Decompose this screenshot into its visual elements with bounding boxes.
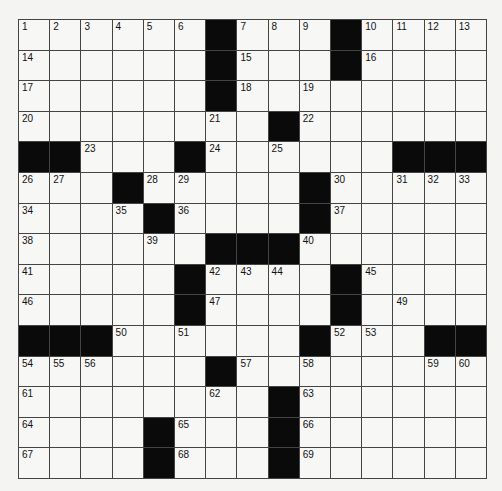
grid-cell[interactable]	[393, 112, 423, 142]
grid-cell[interactable]: 60	[456, 357, 486, 387]
grid-cell[interactable]	[206, 418, 236, 448]
grid-cell[interactable]	[456, 448, 486, 478]
grid-cell[interactable]: 21	[206, 112, 236, 142]
grid-cell[interactable]	[81, 81, 111, 111]
grid-cell[interactable]	[393, 51, 423, 81]
grid-cell[interactable]	[425, 112, 455, 142]
grid-cell[interactable]: 51	[175, 326, 205, 356]
grid-cell[interactable]	[331, 357, 361, 387]
grid-cell[interactable]: 36	[175, 204, 205, 234]
grid-cell[interactable]	[206, 448, 236, 478]
grid-cell[interactable]: 61	[19, 387, 49, 417]
grid-cell[interactable]: 18	[237, 81, 267, 111]
grid-cell[interactable]	[425, 204, 455, 234]
grid-cell[interactable]	[393, 234, 423, 264]
grid-cell[interactable]: 63	[300, 387, 330, 417]
grid-cell[interactable]	[362, 204, 392, 234]
grid-cell[interactable]: 57	[237, 357, 267, 387]
grid-cell[interactable]	[206, 173, 236, 203]
grid-cell[interactable]	[393, 418, 423, 448]
grid-cell[interactable]: 54	[19, 357, 49, 387]
grid-cell[interactable]: 8	[269, 20, 299, 50]
grid-cell[interactable]	[81, 173, 111, 203]
grid-cell[interactable]	[300, 265, 330, 295]
grid-cell[interactable]	[456, 295, 486, 325]
grid-cell[interactable]	[269, 81, 299, 111]
grid-cell[interactable]: 5	[144, 20, 174, 50]
grid-cell[interactable]: 43	[237, 265, 267, 295]
grid-cell[interactable]	[269, 295, 299, 325]
grid-cell[interactable]	[113, 295, 143, 325]
grid-cell[interactable]	[237, 173, 267, 203]
grid-cell[interactable]	[175, 234, 205, 264]
grid-cell[interactable]	[331, 81, 361, 111]
grid-cell[interactable]	[331, 448, 361, 478]
grid-cell[interactable]	[237, 204, 267, 234]
grid-cell[interactable]: 53	[362, 326, 392, 356]
grid-cell[interactable]	[425, 418, 455, 448]
grid-cell[interactable]	[456, 51, 486, 81]
grid-cell[interactable]: 4	[113, 20, 143, 50]
grid-cell[interactable]: 49	[393, 295, 423, 325]
grid-cell[interactable]: 23	[81, 142, 111, 172]
grid-cell[interactable]: 9	[300, 20, 330, 50]
grid-cell[interactable]	[144, 112, 174, 142]
grid-cell[interactable]	[456, 204, 486, 234]
grid-cell[interactable]	[269, 51, 299, 81]
grid-cell[interactable]	[81, 448, 111, 478]
grid-cell[interactable]: 16	[362, 51, 392, 81]
grid-cell[interactable]	[393, 326, 423, 356]
grid-cell[interactable]: 38	[19, 234, 49, 264]
grid-cell[interactable]	[113, 112, 143, 142]
grid-cell[interactable]	[237, 326, 267, 356]
grid-cell[interactable]: 26	[19, 173, 49, 203]
grid-cell[interactable]	[113, 81, 143, 111]
grid-cell[interactable]: 69	[300, 448, 330, 478]
grid-cell[interactable]	[425, 295, 455, 325]
grid-cell[interactable]: 58	[300, 357, 330, 387]
grid-cell[interactable]	[393, 448, 423, 478]
grid-cell[interactable]	[237, 448, 267, 478]
grid-cell[interactable]	[206, 326, 236, 356]
grid-cell[interactable]	[237, 387, 267, 417]
grid-cell[interactable]: 31	[393, 173, 423, 203]
grid-cell[interactable]: 3	[81, 20, 111, 50]
grid-cell[interactable]	[144, 51, 174, 81]
grid-cell[interactable]	[362, 234, 392, 264]
grid-cell[interactable]	[113, 51, 143, 81]
grid-cell[interactable]: 14	[19, 51, 49, 81]
grid-cell[interactable]	[50, 418, 80, 448]
grid-cell[interactable]: 12	[425, 20, 455, 50]
grid-cell[interactable]	[362, 418, 392, 448]
grid-cell[interactable]	[144, 265, 174, 295]
grid-cell[interactable]	[362, 295, 392, 325]
grid-cell[interactable]	[50, 265, 80, 295]
grid-cell[interactable]	[362, 448, 392, 478]
grid-cell[interactable]	[425, 51, 455, 81]
grid-cell[interactable]	[50, 81, 80, 111]
grid-cell[interactable]	[144, 142, 174, 172]
grid-cell[interactable]: 2	[50, 20, 80, 50]
grid-cell[interactable]	[144, 81, 174, 111]
grid-cell[interactable]: 40	[300, 234, 330, 264]
grid-cell[interactable]	[50, 234, 80, 264]
grid-cell[interactable]	[362, 81, 392, 111]
grid-cell[interactable]	[206, 204, 236, 234]
grid-cell[interactable]	[50, 51, 80, 81]
grid-cell[interactable]: 46	[19, 295, 49, 325]
grid-cell[interactable]: 50	[113, 326, 143, 356]
grid-cell[interactable]: 7	[237, 20, 267, 50]
grid-cell[interactable]: 1	[19, 20, 49, 50]
grid-cell[interactable]	[456, 418, 486, 448]
grid-cell[interactable]	[81, 295, 111, 325]
grid-cell[interactable]: 17	[19, 81, 49, 111]
grid-cell[interactable]: 29	[175, 173, 205, 203]
grid-cell[interactable]: 35	[113, 204, 143, 234]
grid-cell[interactable]	[425, 234, 455, 264]
grid-cell[interactable]: 66	[300, 418, 330, 448]
grid-cell[interactable]	[362, 142, 392, 172]
grid-cell[interactable]	[331, 387, 361, 417]
grid-cell[interactable]: 24	[206, 142, 236, 172]
grid-cell[interactable]: 32	[425, 173, 455, 203]
grid-cell[interactable]	[113, 418, 143, 448]
